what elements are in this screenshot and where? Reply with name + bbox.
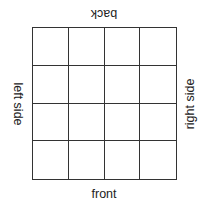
- grid-cell: [105, 104, 141, 142]
- grid-4x4: [32, 27, 177, 180]
- front-label: front: [91, 188, 116, 201]
- grid-cell: [69, 66, 105, 104]
- grid-cell: [33, 141, 69, 179]
- grid-cell: [69, 28, 105, 66]
- grid-cell: [105, 28, 141, 66]
- grid-cell: [69, 104, 105, 142]
- grid-cell: [140, 28, 176, 66]
- grid-cell: [105, 141, 141, 179]
- grid-cell: [140, 66, 176, 104]
- grid-cell: [33, 104, 69, 142]
- grid-cell: [69, 141, 105, 179]
- back-label: back: [91, 8, 117, 21]
- grid-cell: [140, 104, 176, 142]
- left-side-label: left side: [12, 82, 25, 125]
- grid-cell: [140, 141, 176, 179]
- grid-cell: [105, 66, 141, 104]
- right-side-label: right side: [184, 79, 197, 130]
- grid-cell: [33, 66, 69, 104]
- grid-cell: [33, 28, 69, 66]
